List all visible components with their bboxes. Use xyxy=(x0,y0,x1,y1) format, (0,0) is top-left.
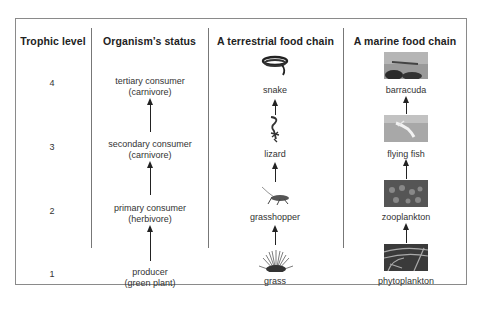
arrow-up-icon xyxy=(406,165,407,179)
arrow-up-icon xyxy=(406,102,407,114)
arrow-up-icon xyxy=(275,231,276,245)
status-line: (carnivore) xyxy=(90,150,210,161)
marine-label-phytoplankton: phytoplankton xyxy=(351,276,461,286)
status-line: tertiary consumer xyxy=(90,76,210,87)
status-line: (green plant) xyxy=(90,278,210,289)
terrestrial-label-snake: snake xyxy=(220,85,330,95)
terrestrial-label-lizard: lizard xyxy=(220,149,330,159)
snake-icon xyxy=(260,52,292,78)
header-organism-status: Organism’s status xyxy=(91,35,208,47)
marine-label-zooplankton: zooplankton xyxy=(351,212,461,222)
status-line: secondary consumer xyxy=(90,139,210,150)
phytoplankton-photo xyxy=(384,244,428,271)
trophic-level-1: 1 xyxy=(32,269,72,279)
lizard-icon xyxy=(265,115,285,143)
flying-fish-photo xyxy=(384,115,428,142)
status-line: (carnivore) xyxy=(90,87,210,98)
status-primary: primary consumer (herbivore) xyxy=(90,203,210,225)
trophic-level-4: 4 xyxy=(32,78,72,88)
marine-label-flying-fish: flying fish xyxy=(351,149,461,159)
arrow-up-icon xyxy=(150,231,151,261)
marine-label-barracuda: barracuda xyxy=(351,85,461,95)
column-divider xyxy=(343,28,344,248)
status-tertiary: tertiary consumer (carnivore) xyxy=(90,76,210,98)
terrestrial-label-grass: grass xyxy=(220,276,330,286)
arrow-up-icon xyxy=(150,104,151,132)
terrestrial-label-grasshopper: grasshopper xyxy=(220,212,330,222)
arrow-up-icon xyxy=(275,105,276,115)
status-line: (herbivore) xyxy=(90,214,210,225)
trophic-level-3: 3 xyxy=(32,142,72,152)
zooplankton-photo xyxy=(384,180,428,207)
grass-icon xyxy=(257,248,295,272)
status-line: producer xyxy=(90,267,210,278)
arrow-up-icon xyxy=(150,167,151,195)
status-producer: producer (green plant) xyxy=(90,267,210,289)
status-secondary: secondary consumer (carnivore) xyxy=(90,139,210,161)
barracuda-photo xyxy=(384,52,428,79)
header-marine-chain: A marine food chain xyxy=(343,35,467,47)
header-trophic-level: Trophic level xyxy=(15,35,91,47)
status-line: primary consumer xyxy=(90,203,210,214)
trophic-level-2: 2 xyxy=(32,206,72,216)
grasshopper-icon xyxy=(260,185,294,207)
header-terrestrial-chain: A terrestrial food chain xyxy=(208,35,343,47)
arrow-up-icon xyxy=(406,229,407,243)
arrow-up-icon xyxy=(275,168,276,182)
